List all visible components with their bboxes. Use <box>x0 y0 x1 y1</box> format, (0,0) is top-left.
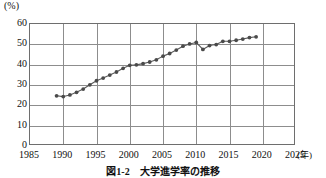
data-series-line <box>30 24 296 146</box>
data-point-marker <box>161 54 165 58</box>
data-point-marker <box>228 39 232 43</box>
y-axis-tick-label: 50 <box>1 38 27 48</box>
data-point-marker <box>81 87 85 91</box>
data-point-marker <box>201 48 205 52</box>
data-point-marker <box>241 37 245 41</box>
y-axis-tick-label: 20 <box>1 99 27 109</box>
data-point-marker <box>168 52 172 56</box>
data-point-marker <box>174 48 178 52</box>
data-point-marker <box>194 41 198 45</box>
data-point-marker <box>221 39 225 43</box>
figure-caption: 図1-2 大学進学率の推移 <box>0 166 326 177</box>
data-point-marker <box>254 35 258 39</box>
data-point-marker <box>101 76 105 80</box>
y-axis-tick-label: 60 <box>1 18 27 28</box>
figure-university-enrollment-rate: (%) 6050403020100 1985199019952000200520… <box>0 0 326 178</box>
plot-area <box>29 23 295 145</box>
series-polyline <box>57 37 257 97</box>
data-point-marker <box>181 44 185 48</box>
series-markers <box>55 35 258 99</box>
data-point-marker <box>108 73 112 77</box>
y-axis-tick-label: 30 <box>1 79 27 89</box>
y-axis-tick-label: 40 <box>1 59 27 69</box>
data-point-marker <box>128 63 132 67</box>
data-point-marker <box>208 44 212 48</box>
data-point-marker <box>88 83 92 87</box>
data-point-marker <box>234 38 238 42</box>
data-point-marker <box>55 94 59 98</box>
data-point-marker <box>148 60 152 64</box>
data-point-marker <box>68 93 72 97</box>
data-point-marker <box>154 58 158 62</box>
data-point-marker <box>95 79 99 83</box>
y-axis-tick-label: 10 <box>1 120 27 130</box>
data-point-marker <box>115 70 119 74</box>
data-point-marker <box>141 62 145 66</box>
data-point-marker <box>61 95 65 99</box>
data-point-marker <box>248 36 252 40</box>
x-axis-unit-label: (年) <box>297 150 312 160</box>
data-point-marker <box>188 42 192 46</box>
data-point-marker <box>121 66 125 70</box>
data-point-marker <box>135 63 139 67</box>
y-axis-unit-label: (%) <box>4 1 19 11</box>
data-point-marker <box>75 90 79 94</box>
data-point-marker <box>214 43 218 47</box>
